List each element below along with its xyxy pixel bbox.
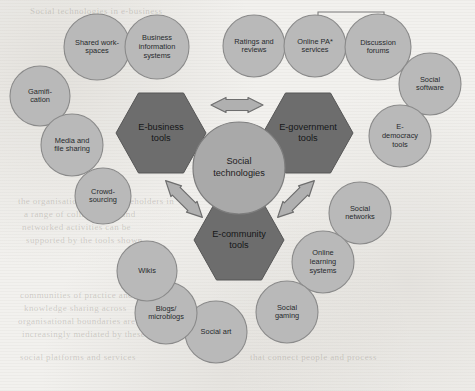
circle-label-social-software: Socialsoftware (416, 75, 444, 93)
circle-label-wikis: Wikis (138, 266, 156, 275)
circle-label-social-gaming: Socialgaming (275, 303, 299, 321)
center-node-social-technologies: Socialtechnologies (193, 122, 285, 214)
circle-label-social-art: Social art (201, 327, 232, 336)
circle-label-crowdsourcing: Crowd-sourcing (89, 187, 117, 205)
circle-node-ratings-and-reviews: Ratings andreviews (223, 15, 285, 77)
diagram-canvas: Shared work-spacesBusinessinformationsys… (0, 0, 475, 391)
center-node-layer: Socialtechnologies (193, 122, 285, 214)
circle-node-crowdsourcing: Crowd-sourcing (75, 168, 131, 224)
circle-label-online-pa-services: Online PA*services (297, 37, 333, 55)
circle-node-discussion-forums: Discussionforums (345, 14, 411, 80)
circle-node-business-information-systems: Businessinformationsystems (125, 15, 189, 79)
circle-node-online-learning-systems: Onlinelearningsystems (292, 231, 354, 293)
circle-node-online-pa-services: Online PA*services (284, 15, 346, 77)
circle-node-social-gaming: Socialgaming (256, 281, 318, 343)
social-technologies-figure: Social technologies in e-businessthe org… (0, 0, 475, 391)
circle-node-wikis: Wikis (117, 241, 177, 301)
circle-label-gamification: Gamifi-cation (28, 87, 52, 105)
circle-label-online-learning-systems: Onlinelearningsystems (309, 248, 336, 274)
circle-node-shared-workspaces: Shared work-spaces (64, 14, 130, 80)
hexagon-node-e-business: E-businesstools (116, 93, 206, 173)
arrow-arrow-business-government (211, 98, 263, 113)
circle-label-media-and-file-sharing: Media andfile sharing (54, 136, 90, 154)
circle-node-media-and-file-sharing: Media andfile sharing (41, 114, 103, 176)
circle-label-business-information-systems: Businessinformationsystems (139, 33, 176, 59)
circle-node-e-democracy-tools: E-democracytools (369, 105, 431, 167)
